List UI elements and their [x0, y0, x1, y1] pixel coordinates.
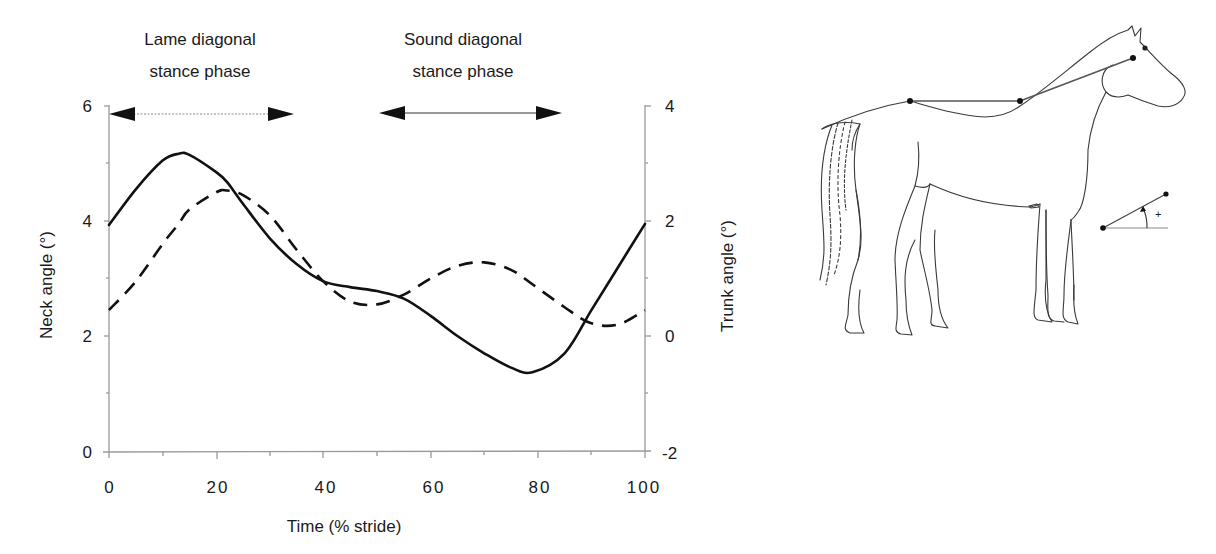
lame-phase-annotation: Lame diagonal stance phase — [109, 30, 294, 121]
sound-phase-label-line1: Sound diagonal — [404, 30, 522, 49]
arrow-right-icon — [536, 106, 562, 120]
left-axis-title: Neck angle (°) — [37, 231, 56, 339]
marker-dot — [1100, 225, 1106, 231]
tick-label: 0 — [104, 478, 115, 497]
tick-label: 4 — [83, 212, 92, 231]
tick-label: 2 — [83, 327, 92, 346]
angle-convention-diagram: + — [1100, 191, 1168, 230]
tick-label: 20 — [207, 478, 230, 497]
x-axis-title: Time (% stride) — [287, 517, 402, 536]
sound-phase-label-line2: stance phase — [412, 62, 513, 81]
arrow-left-icon — [109, 107, 135, 121]
tick-label: 60 — [423, 478, 446, 497]
x-axis — [103, 451, 651, 452]
positive-sign: + — [1155, 208, 1161, 220]
tick-label: 4 — [665, 97, 674, 116]
right-tick-labels: -2 0 2 4 — [662, 97, 677, 463]
tick-label: 0 — [665, 327, 674, 346]
marker-dot — [1017, 98, 1023, 104]
tick-label: 2 — [665, 212, 674, 231]
left-tick-labels: 0 2 4 6 — [83, 97, 92, 462]
tick-label: 100 — [627, 478, 661, 497]
arrow-right-icon — [268, 107, 294, 121]
trunk-angle-series — [109, 190, 645, 326]
marker-dot — [1130, 55, 1136, 61]
x-tick-labels: 0 20 40 60 80 100 — [104, 478, 661, 497]
neck-segment-line — [1020, 58, 1133, 101]
horse-illustration — [820, 26, 1185, 335]
tick-label: 6 — [83, 97, 92, 116]
lame-phase-label-line1: Lame diagonal — [144, 30, 256, 49]
tick-label: -2 — [662, 444, 677, 463]
marker-dot — [907, 98, 913, 104]
tick-label: 80 — [529, 478, 552, 497]
tick-label: 0 — [83, 443, 92, 462]
marker-dot — [1163, 191, 1168, 196]
lame-phase-label-line2: stance phase — [149, 62, 250, 81]
axes — [103, 105, 651, 459]
right-axis-title: Trunk angle (°) — [718, 220, 737, 332]
figure: Lame diagonal stance phase Sound diagona… — [0, 0, 1216, 554]
sound-phase-annotation: Sound diagonal stance phase — [379, 30, 562, 120]
tick-label: 40 — [315, 478, 338, 497]
neck-angle-series — [109, 153, 645, 373]
arrow-left-icon — [379, 106, 405, 120]
